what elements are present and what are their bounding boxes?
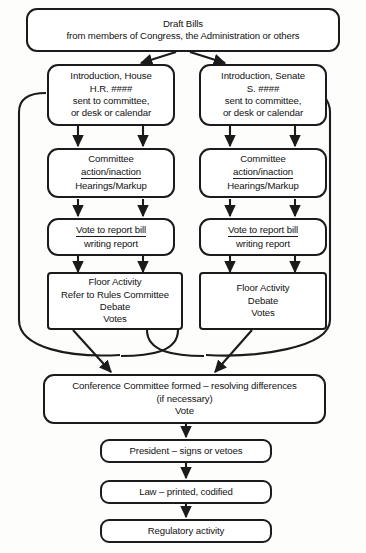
edge-floor-senate-to-conference xyxy=(215,330,252,372)
floor-house-line-1: Floor Activity xyxy=(89,276,142,288)
committee-house-line-1: Committee xyxy=(88,153,133,165)
intro-house-line-3: sent to committee, xyxy=(73,95,150,107)
committee-house-line-2: action/inaction xyxy=(81,166,141,179)
intro-senate-line-2: S. #### xyxy=(247,83,279,95)
node-committee-senate[interactable]: Committee action/inaction Hearings/Marku… xyxy=(199,148,327,198)
draft-bills-line-2: from members of Congress, the Administra… xyxy=(67,30,300,42)
vote-senate-line-2: writing report xyxy=(236,238,290,250)
edge-draft-to-intro-senate xyxy=(190,52,225,63)
node-introduction-house[interactable]: Introduction, House H.R. #### sent to co… xyxy=(47,64,175,126)
node-vote-report-house[interactable]: Vote to report bill writing report xyxy=(47,218,175,256)
floor-house-line-2: Refer to Rules Committee xyxy=(61,289,169,301)
edge-floor-house-to-conference xyxy=(73,330,111,372)
flowchart-canvas: Draft Bills from members of Congress, th… xyxy=(0,0,366,553)
intro-house-line-1: Introduction, House xyxy=(70,70,151,82)
intro-senate-line-4: or desk or calendar xyxy=(223,107,303,119)
regulatory-line-1: Regulatory activity xyxy=(148,525,224,537)
committee-senate-line-2: action/inaction xyxy=(233,166,293,179)
node-regulatory-activity[interactable]: Regulatory activity xyxy=(100,519,272,543)
node-floor-activity-house[interactable]: Floor Activity Refer to Rules Committee … xyxy=(47,272,183,330)
draft-bills-line-1: Draft Bills xyxy=(163,18,203,30)
node-committee-house[interactable]: Committee action/inaction Hearings/Marku… xyxy=(47,148,175,198)
node-vote-report-senate[interactable]: Vote to report bill writing report xyxy=(199,218,327,256)
committee-house-line-3: Hearings/Markup xyxy=(75,180,147,192)
edge-draft-to-intro-house xyxy=(141,52,176,63)
floor-senate-line-1: Floor Activity xyxy=(237,282,290,294)
floor-house-line-4: Votes xyxy=(103,313,127,325)
conference-line-2: (if necessary) xyxy=(156,393,212,405)
intro-senate-line-1: Introduction, Senate xyxy=(221,70,305,82)
node-president[interactable]: President – signs or vetoes xyxy=(100,439,272,463)
vote-senate-line-1: Vote to report bill xyxy=(228,224,298,237)
intro-senate-line-3: sent to committee, xyxy=(225,95,302,107)
node-floor-activity-senate[interactable]: Floor Activity Debate Votes xyxy=(199,272,327,330)
vote-house-line-2: writing report xyxy=(84,238,138,250)
floor-senate-line-3: Votes xyxy=(251,307,275,319)
conference-line-1: Conference Committee formed – resolving … xyxy=(72,380,297,392)
floor-senate-line-2: Debate xyxy=(248,295,278,307)
node-conference-committee[interactable]: Conference Committee formed – resolving … xyxy=(43,374,326,424)
floor-house-line-3: Debate xyxy=(100,301,130,313)
node-introduction-senate[interactable]: Introduction, Senate S. #### sent to com… xyxy=(199,64,327,126)
intro-house-line-2: H.R. #### xyxy=(90,83,132,95)
conference-line-3: Vote xyxy=(175,405,194,417)
node-draft-bills[interactable]: Draft Bills from members of Congress, th… xyxy=(26,8,340,52)
intro-house-line-4: or desk or calendar xyxy=(71,107,151,119)
committee-senate-line-1: Committee xyxy=(240,153,285,165)
vote-house-line-1: Vote to report bill xyxy=(76,224,146,237)
node-law[interactable]: Law – printed, codified xyxy=(100,480,272,504)
committee-senate-line-3: Hearings/Markup xyxy=(227,180,299,192)
president-line-1: President – signs or vetoes xyxy=(129,445,242,457)
law-line-1: Law – printed, codified xyxy=(139,486,233,498)
